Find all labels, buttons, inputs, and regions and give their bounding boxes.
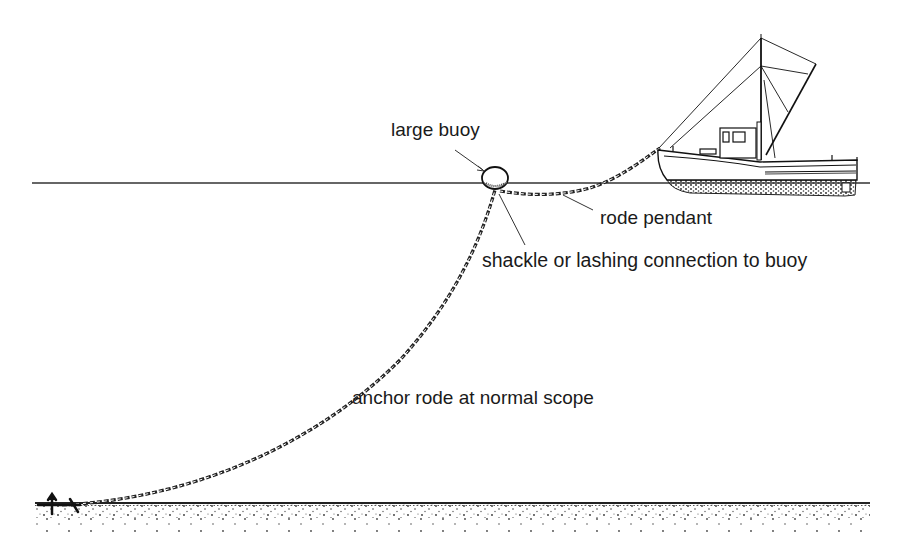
label-large-buoy: large buoy (391, 120, 480, 139)
label-shackle-connection: shackle or lashing connection to buoy (482, 251, 807, 271)
rode-pendant-chain (500, 148, 660, 194)
large-buoy (482, 167, 508, 189)
fishing-boat (658, 34, 857, 196)
leader-lines (455, 150, 593, 245)
seabed (35, 503, 870, 532)
label-anchor-rode: anchor rode at normal scope (352, 388, 594, 407)
anchor-rode-chain (62, 190, 495, 505)
anchoring-diagram (0, 0, 903, 558)
label-rode-pendant: rode pendant (600, 208, 712, 227)
